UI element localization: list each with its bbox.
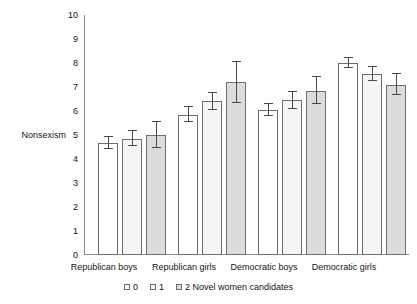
legend-item-1[interactable]: 1: [150, 282, 164, 292]
legend: 0 1 2 Novel women candidates: [0, 282, 417, 292]
legend-label-0: 0: [133, 282, 138, 292]
legend-swatch-icon-2: [176, 284, 182, 290]
legend-swatch-icon-0: [124, 284, 130, 290]
y-tick-label-10: 10: [0, 10, 78, 20]
y-tick-label-4: 4: [0, 154, 78, 164]
y-tick-label-0: 0: [0, 250, 78, 260]
y-axis-title: Nonsexism: [14, 130, 66, 140]
bar-group-republican-boys: [98, 15, 170, 255]
y-tick-label-2: 2: [0, 202, 78, 212]
x-tick-label-republican-boys: Republican boys: [62, 262, 146, 272]
y-tick-label-6: 6: [0, 106, 78, 116]
y-axis-line: [84, 15, 85, 255]
errorbar-cap-top-republican-girls-2: [232, 61, 241, 62]
errorbar-cap-top-republican-boys-1: [128, 130, 137, 131]
bar-republican-girls-2: [226, 82, 246, 255]
errorbar-cap-top-democratic-boys-1: [288, 91, 297, 92]
y-tick-label-7: 7: [0, 82, 78, 92]
errorbar-cap-bottom-democratic-girls-1: [368, 80, 377, 81]
legend-label-2: 2 Novel women candidates: [185, 282, 293, 292]
bar-democratic-boys-2: [306, 91, 326, 255]
y-tick-label-9: 9: [0, 34, 78, 44]
x-tick-label-democratic-boys: Democratic boys: [222, 262, 306, 272]
errorbar-democratic-boys-1: [292, 92, 293, 109]
bar-group-democratic-boys: [258, 15, 330, 255]
errorbar-republican-boys-1: [132, 131, 133, 145]
errorbar-cap-bottom-republican-boys-1: [128, 145, 137, 146]
errorbar-cap-top-democratic-girls-0: [344, 57, 353, 58]
legend-item-2[interactable]: 2 Novel women candidates: [176, 282, 293, 292]
errorbar-cap-bottom-democratic-girls-2: [392, 94, 401, 95]
bar-democratic-girls-0: [338, 63, 358, 255]
y-tick-label-8: 8: [0, 58, 78, 68]
errorbar-democratic-girls-2: [396, 74, 397, 96]
x-tick-label-republican-girls: Republican girls: [142, 262, 226, 272]
errorbar-cap-bottom-democratic-girls-0: [344, 67, 353, 68]
legend-item-0[interactable]: 0: [124, 282, 138, 292]
y-axis: 10 9 8 7 6 5 4 3 2 1 0: [0, 0, 78, 304]
bar-republican-girls-0: [178, 115, 198, 255]
errorbar-cap-bottom-republican-girls-1: [208, 109, 217, 110]
errorbar-cap-bottom-republican-boys-0: [104, 148, 113, 149]
errorbar-cap-top-democratic-girls-2: [392, 73, 401, 74]
bar-democratic-boys-1: [282, 100, 302, 255]
x-tick-label-democratic-girls: Democratic girls: [302, 262, 386, 272]
errorbar-republican-boys-2: [156, 122, 157, 148]
legend-swatch-icon-1: [150, 284, 156, 290]
y-tick-label-3: 3: [0, 178, 78, 188]
errorbar-democratic-boys-2: [316, 77, 317, 103]
bar-republican-boys-0: [98, 143, 118, 255]
plot-area: [84, 15, 409, 255]
bar-republican-girls-1: [202, 101, 222, 255]
bar-republican-boys-1: [122, 139, 142, 255]
nonsexism-bar-chart: 10 9 8 7 6 5 4 3 2 1 0 Nonsexism: [0, 0, 417, 304]
errorbar-republican-girls-1: [212, 93, 213, 110]
errorbar-cap-top-republican-boys-2: [152, 121, 161, 122]
errorbar-cap-bottom-democratic-boys-0: [264, 115, 273, 116]
errorbar-cap-top-republican-boys-0: [104, 136, 113, 137]
errorbar-cap-bottom-democratic-boys-1: [288, 108, 297, 109]
errorbar-cap-top-republican-girls-0: [184, 106, 193, 107]
bar-group-republican-girls: [178, 15, 250, 255]
bar-democratic-girls-2: [386, 85, 406, 255]
errorbar-cap-bottom-republican-girls-2: [232, 102, 241, 103]
errorbar-republican-girls-2: [236, 62, 237, 103]
errorbar-republican-girls-0: [188, 107, 189, 121]
errorbar-cap-top-democratic-girls-1: [368, 66, 377, 67]
y-tick-label-1: 1: [0, 226, 78, 236]
bar-democratic-boys-0: [258, 110, 278, 255]
errorbar-cap-top-republican-girls-1: [208, 92, 217, 93]
errorbar-cap-top-democratic-boys-2: [312, 76, 321, 77]
errorbar-cap-bottom-republican-boys-2: [152, 147, 161, 148]
errorbar-cap-top-democratic-boys-0: [264, 103, 273, 104]
errorbar-cap-bottom-republican-girls-0: [184, 121, 193, 122]
bar-democratic-girls-1: [362, 74, 382, 255]
legend-label-1: 1: [159, 282, 164, 292]
bar-republican-boys-2: [146, 135, 166, 255]
errorbar-cap-bottom-democratic-boys-2: [312, 103, 321, 104]
errorbar-democratic-girls-1: [372, 67, 373, 81]
bar-group-democratic-girls: [338, 15, 410, 255]
